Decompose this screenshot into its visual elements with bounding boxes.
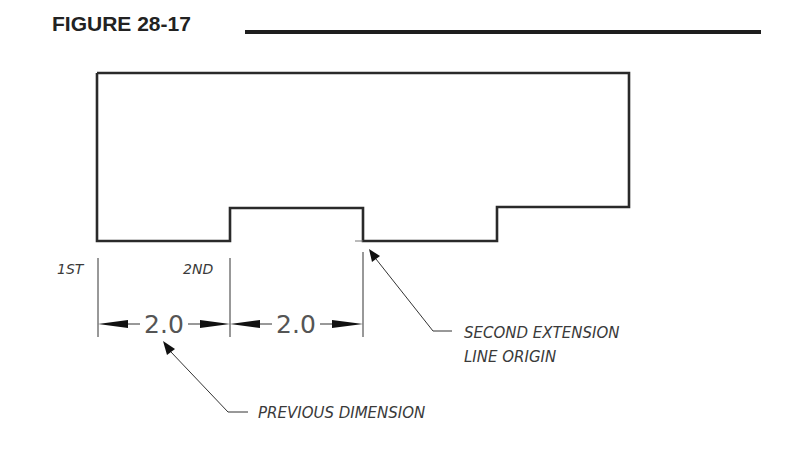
dimension-1: 2.0 <box>98 310 230 339</box>
leader-second-extension <box>369 249 452 331</box>
dimension-2: 2.0 <box>230 310 363 339</box>
dimension-2-value: 2.0 <box>276 310 316 339</box>
label-previous-dimension: PREVIOUS DIMENSION <box>258 404 425 422</box>
label-second-extension-line2: LINE ORIGIN <box>464 348 556 366</box>
dimension-1-value: 2.0 <box>144 310 184 339</box>
label-1st: 1ST <box>57 261 85 277</box>
dimension-drawing: 2.0 2.0 1ST 2ND SECOND EXTENSION LINE OR… <box>0 0 795 452</box>
label-second-extension-line1: SECOND EXTENSION <box>464 324 619 342</box>
part-outline <box>97 73 629 241</box>
leader-previous-dimension <box>163 341 248 412</box>
label-2nd: 2ND <box>183 261 213 277</box>
